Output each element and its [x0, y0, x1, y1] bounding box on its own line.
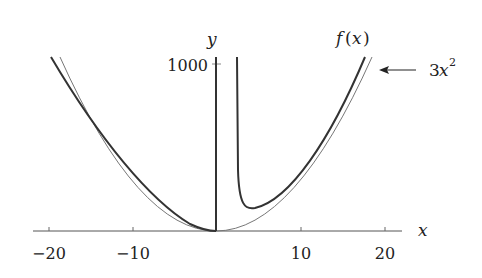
curve-f-right-branch	[237, 57, 365, 208]
x-tick-label-m20: −20	[32, 244, 66, 263]
f-label-x: x	[352, 28, 362, 48]
x-axis-label: x	[418, 220, 428, 240]
x-tick-label-20: 20	[375, 244, 395, 263]
f-label-open-paren: (	[345, 28, 352, 48]
y-tick-label-1000: 1000	[167, 56, 208, 75]
f-label-close-paren: )	[363, 28, 370, 48]
q-label-x: x	[439, 60, 449, 80]
function-plot: y x 1000 −20 −10 10 20 f ( x ) 3 x 2	[0, 0, 482, 278]
f-label-f: f	[334, 28, 345, 48]
curve-f-left-branch	[51, 57, 216, 231]
y-axis-label: y	[206, 29, 217, 49]
x-tick-label-m10: −10	[116, 244, 150, 263]
q-label-exponent: 2	[449, 56, 456, 69]
annotation-f-of-x: f ( x )	[334, 28, 370, 48]
annotation-3x-squared: 3 x 2	[379, 56, 456, 80]
x-tick-label-10: 10	[291, 244, 311, 263]
